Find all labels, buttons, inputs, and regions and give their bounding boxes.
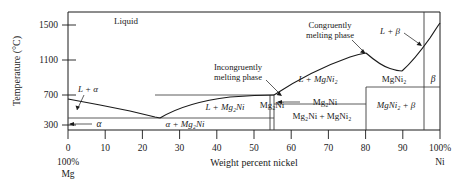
annotation-incongruent-line2: melting phase bbox=[214, 72, 262, 82]
y-axis-title-group: Temperature (°C) bbox=[11, 36, 23, 106]
phase-diagram-figure: 1500 1100 700 300 Temperature (°C) 0 10 bbox=[0, 0, 472, 180]
x-tick-label-40: 40 bbox=[212, 143, 222, 153]
annotation-congruent-melting: Congruently melting phase bbox=[306, 20, 365, 54]
x-tick-label-60: 60 bbox=[286, 143, 296, 153]
region-label-mg2ni-pointer: Mg₂Ni bbox=[313, 97, 338, 107]
mg-rich-liquidus bbox=[68, 99, 160, 118]
x-axis-tick-labels: 0 10 20 30 40 50 60 70 80 90 100% bbox=[66, 143, 452, 153]
left-endmember-percent: 100% bbox=[57, 157, 79, 167]
y-axis-tick-labels: 1500 1100 700 300 bbox=[39, 20, 58, 130]
phase-diagram-svg: 1500 1100 700 300 Temperature (°C) 0 10 bbox=[0, 0, 472, 180]
annotation-congruent-line2: melting phase bbox=[306, 30, 354, 40]
region-label-alpha-group: α bbox=[69, 119, 103, 129]
annotation-congruent-line1: Congruently bbox=[309, 20, 353, 30]
region-label-alpha: α bbox=[97, 119, 103, 129]
right-endmember-label: Ni bbox=[435, 157, 445, 167]
x-tick-label-20: 20 bbox=[138, 143, 148, 153]
region-label-beta: β bbox=[430, 74, 436, 84]
x-tick-label-50: 50 bbox=[249, 143, 259, 153]
region-label-l-plus-mg2ni: L + Mg₂Ni bbox=[204, 102, 245, 112]
left-endmember-element: Mg bbox=[61, 169, 74, 179]
annotation-incongruent-line1: Incongruently bbox=[214, 62, 263, 72]
x-tick-label-10: 10 bbox=[100, 143, 110, 153]
region-label-mg2ni-plus-mgni2: Mg₂Ni + MgNi₂ bbox=[293, 111, 352, 121]
y-tick-label-700: 700 bbox=[44, 90, 59, 100]
right-endmember-element: Ni bbox=[435, 157, 445, 167]
x-tick-label-0: 0 bbox=[66, 143, 71, 153]
region-label-l-plus-beta: L + β bbox=[379, 26, 400, 36]
left-endmember-label: 100% Mg bbox=[57, 157, 79, 179]
region-label-alpha-plus-mg2ni: α + Mg₂Ni bbox=[166, 119, 205, 129]
congruent-arrowhead bbox=[360, 49, 366, 54]
region-label-mgni2-plus-beta: MgNi₂ + β bbox=[376, 100, 416, 110]
region-label-l-plus-alpha: L + α bbox=[77, 84, 98, 94]
region-label-mgni2: MgNi₂ bbox=[382, 74, 407, 84]
region-label-l-plus-alpha-group: L + α bbox=[76, 84, 99, 110]
x-tick-label-30: 30 bbox=[175, 143, 185, 153]
y-axis-ticks bbox=[62, 25, 76, 125]
y-axis-title: Temperature (°C) bbox=[11, 36, 23, 106]
region-label-liquid: Liquid bbox=[114, 16, 138, 26]
mg2ni-pointer-group: Mg₂Ni bbox=[277, 97, 338, 107]
y-tick-label-300: 300 bbox=[44, 120, 59, 130]
annotation-incongruent-melting: Incongruently melting phase bbox=[214, 62, 282, 96]
x-tick-label-80: 80 bbox=[361, 143, 371, 153]
x-tick-label-70: 70 bbox=[324, 143, 334, 153]
x-tick-label-90: 90 bbox=[398, 143, 408, 153]
ni-side-liquidus-descending bbox=[366, 53, 402, 71]
x-axis-ticks bbox=[68, 130, 440, 139]
l-plus-alpha-arrowhead bbox=[76, 106, 81, 111]
ni-side-liquidus-ascending bbox=[402, 23, 440, 71]
y-tick-label-1500: 1500 bbox=[39, 20, 58, 30]
y-tick-label-1100: 1100 bbox=[39, 55, 58, 65]
region-label-l-plus-beta-group: L + β bbox=[379, 26, 422, 46]
x-axis-title: Weight percent nickel bbox=[210, 157, 298, 168]
region-label-l-plus-mgni2: L + MgNi₂ bbox=[297, 74, 337, 84]
x-tick-label-100: 100% bbox=[429, 143, 451, 153]
